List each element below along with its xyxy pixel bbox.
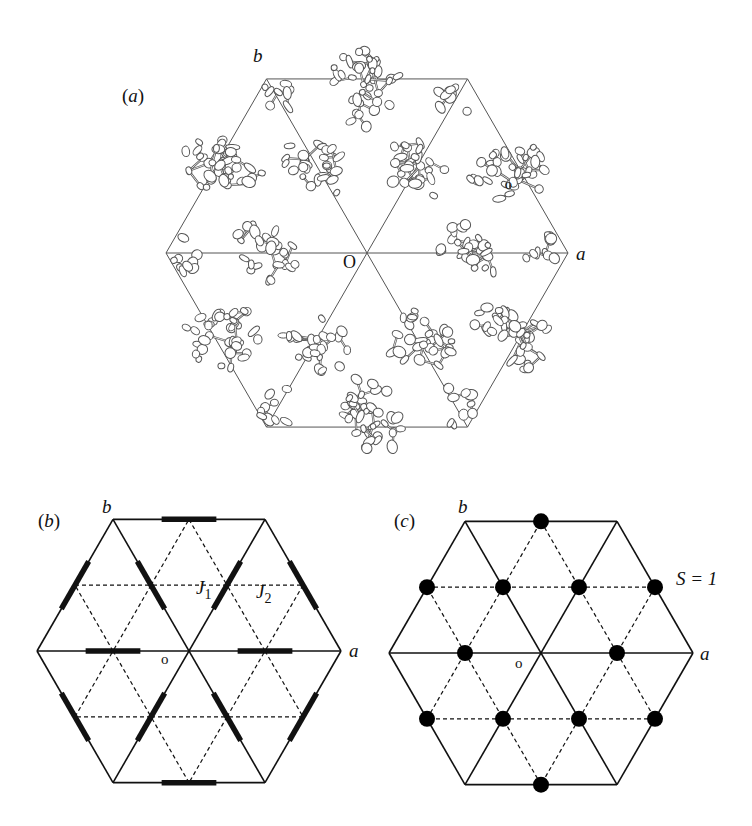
spin-label: S = 1 <box>676 569 717 588</box>
panel-c-label: (c) <box>394 511 415 530</box>
secondary-origin-label: o <box>505 178 512 192</box>
spin-kagome-lattice <box>0 480 752 826</box>
axis-a-label: a <box>700 644 710 663</box>
panel-c: (c) b a o S = 1 <box>0 480 752 826</box>
crystal-structure-diagram <box>0 0 752 480</box>
axis-b-label: b <box>458 497 468 516</box>
axis-a-label: a <box>576 244 586 263</box>
origin-label: O <box>343 253 356 271</box>
origin-label: o <box>515 656 523 671</box>
panel-a: (a) b a O o <box>0 0 752 480</box>
axis-b-label: b <box>253 46 263 65</box>
panel-a-label: (a) <box>122 86 144 105</box>
